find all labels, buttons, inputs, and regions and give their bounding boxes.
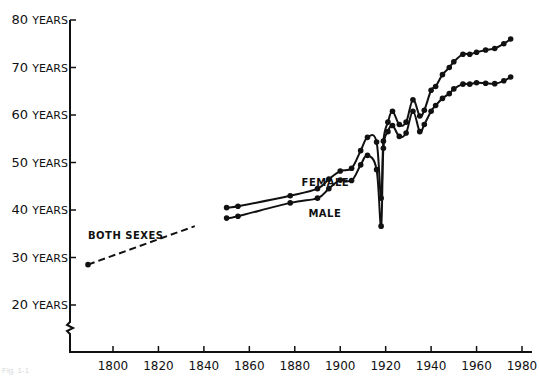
data-point-marker [460,51,466,57]
data-point-marker [428,108,434,114]
data-point-marker [451,86,457,92]
series-line-female [227,39,511,208]
x-tick-label: 1840 [189,359,220,373]
data-point-marker [358,162,364,168]
x-tick-label: 1900 [325,359,356,373]
chart-axes [67,20,532,352]
data-point-marker [417,129,423,135]
data-point-marker [337,168,343,174]
annotation-male: MALE [308,208,341,219]
annotation-female: FEMALE [302,177,350,188]
data-point-marker [501,78,507,84]
x-tick-label: 1920 [370,359,401,373]
data-point-marker [235,203,241,209]
x-tick-label: 1960 [461,359,492,373]
data-point-marker [446,91,452,97]
data-point-marker [508,74,514,80]
axis-lines [67,20,532,352]
data-point-marker [365,153,371,159]
data-point-marker [224,205,230,211]
data-point-marker [433,84,439,90]
data-point-marker [421,122,427,128]
x-axis-ticks: 1800182018401860188019001920194019601980 [98,346,538,373]
data-point-marker [287,200,293,206]
data-point-marker [378,223,384,229]
y-tick-label: 60 YEARS [11,107,68,122]
x-tick-label: 1880 [280,359,311,373]
data-point-marker [417,113,423,119]
data-point-marker [501,41,507,47]
data-point-marker [433,103,439,109]
data-point-marker [428,88,434,94]
data-point-marker [410,97,416,103]
x-tick-label: 1940 [416,359,447,373]
data-point-marker [85,262,91,268]
y-tick-label: 30 YEARS [11,250,68,265]
data-point-marker [349,178,355,184]
data-point-marker [365,135,371,141]
data-point-marker [483,47,489,53]
data-point-marker [483,80,489,86]
data-point-marker [235,213,241,219]
data-point-marker [385,119,391,125]
y-tick-label: 20 YEARS [11,297,68,312]
data-point-marker [374,139,380,145]
x-tick-label: 1980 [507,359,538,373]
data-point-marker [385,129,391,135]
data-point-marker [349,165,355,171]
y-tick-label: 80 YEARS [11,12,68,27]
data-point-marker [440,72,446,78]
y-tick-label: 40 YEARS [11,202,68,217]
annotation-both-sexes: BOTH SEXES [88,230,164,241]
data-point-marker [403,130,409,136]
data-point-marker [492,81,498,87]
data-point-marker [492,46,498,52]
data-point-marker [421,107,427,113]
y-tick-label: 70 YEARS [11,60,68,75]
data-point-marker [381,145,387,151]
x-tick-label: 1820 [143,359,174,373]
data-point-marker [474,80,480,86]
x-tick-label: 1860 [234,359,265,373]
y-tick-label: 50 YEARS [11,155,68,170]
data-point-marker [440,96,446,102]
data-point-marker [390,123,396,129]
series-line-male [227,77,511,226]
data-point-marker [358,148,364,154]
figure-caption: Fig. 1-1 [2,366,29,375]
data-point-marker [224,215,230,221]
data-point-marker [390,108,396,114]
data-point-marker [508,36,514,42]
data-point-marker [467,81,473,87]
data-point-marker [460,81,466,87]
data-point-marker [397,122,403,128]
data-point-marker [315,195,321,201]
data-point-marker [451,59,457,65]
data-point-marker [374,167,380,173]
x-tick-label: 1800 [98,359,129,373]
y-axis-ticks: 80 YEARS70 YEARS60 YEARS50 YEARS40 YEARS… [11,12,76,312]
data-point-marker [467,51,473,57]
data-point-marker [446,65,452,71]
life-expectancy-chart: 80 YEARS70 YEARS60 YEARS50 YEARS40 YEARS… [0,0,539,380]
data-point-marker [287,193,293,199]
data-point-marker [397,134,403,140]
data-point-marker [474,50,480,56]
data-point-marker [410,108,416,114]
series-annotations: FEMALEMALEBOTH SEXES [88,177,349,240]
